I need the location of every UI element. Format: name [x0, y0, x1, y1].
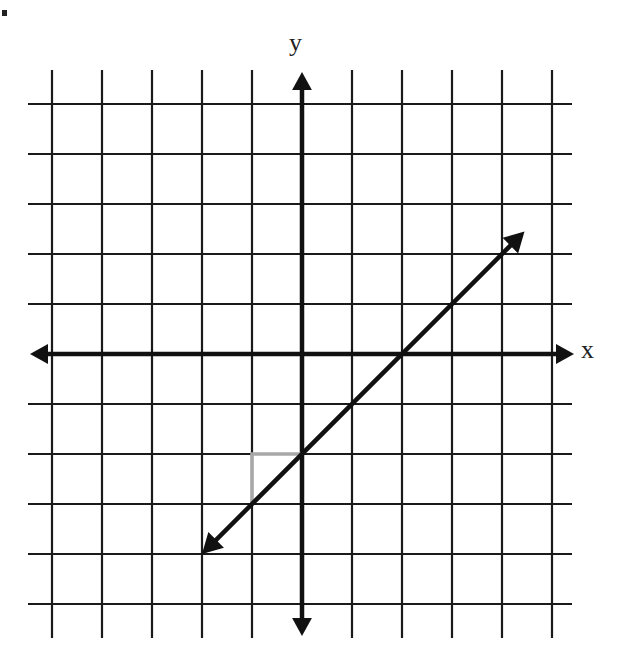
line-segment — [212, 241, 515, 544]
graphed-line — [202, 232, 525, 555]
x-axis-arrow-right-icon — [556, 344, 574, 364]
y-axis-label: y — [289, 30, 302, 56]
x-axis-label: x — [581, 337, 594, 363]
axes — [30, 72, 574, 636]
y-axis-arrow-up-icon — [292, 72, 312, 90]
x-axis-arrow-left-icon — [30, 344, 48, 364]
y-axis-arrow-down-icon — [292, 618, 312, 636]
coordinate-plane — [0, 0, 621, 662]
